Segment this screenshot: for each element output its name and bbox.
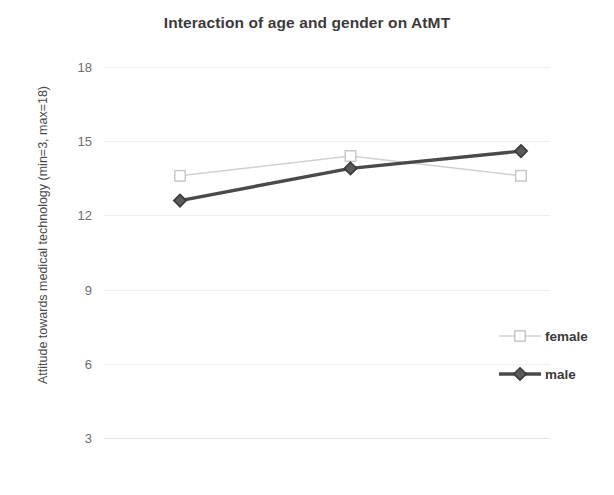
y-tick-label: 18 <box>58 60 92 75</box>
data-point-female <box>345 151 356 162</box>
y-tick-label: 3 <box>58 431 92 446</box>
data-point-female <box>516 171 527 182</box>
y-tick-label: 15 <box>58 134 92 149</box>
legend-item-male[interactable]: male <box>497 365 609 403</box>
plot-area: 181512963 <40 years40-59 years60+ years <box>104 67 550 438</box>
legend-swatch-female <box>497 327 543 345</box>
legend-swatch-male <box>497 365 543 383</box>
data-point-male <box>344 162 356 174</box>
y-tick-label: 9 <box>58 282 92 297</box>
chart-title: Interaction of age and gender on AtMT <box>0 14 614 32</box>
legend-marker-female <box>515 331 526 342</box>
legend-label: female <box>545 329 588 344</box>
y-axis-title: Attitude towards medical technology (min… <box>36 40 50 430</box>
legend: femalemale <box>497 327 609 403</box>
y-tick-label: 6 <box>58 356 92 371</box>
legend-label: male <box>545 367 576 382</box>
data-point-male <box>515 145 527 157</box>
gridline-3 <box>104 438 550 439</box>
data-point-female <box>175 171 186 182</box>
y-tick-label: 12 <box>58 208 92 223</box>
legend-marker-male <box>514 368 526 380</box>
legend-item-female[interactable]: female <box>497 327 609 365</box>
data-point-male <box>174 194 186 206</box>
series-layer <box>104 67 550 438</box>
